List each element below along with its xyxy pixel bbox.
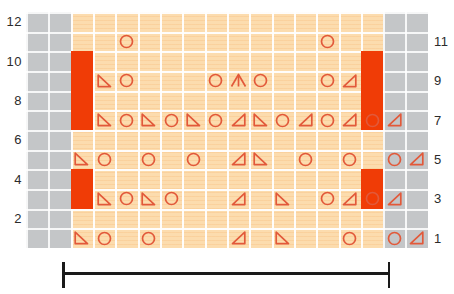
yarn-over-symbol: [138, 150, 160, 170]
decrease-right-symbol: [339, 189, 361, 209]
row-number-1: 1: [434, 232, 454, 245]
yarn-over-symbol: [316, 110, 338, 130]
decrease-left-symbol: [93, 71, 115, 91]
decrease-left-symbol: [93, 110, 115, 130]
row-number-12: 12: [0, 15, 22, 28]
decrease-right-symbol: [339, 110, 361, 130]
yarn-over-symbol: [93, 228, 115, 248]
yarn-over-symbol: [160, 189, 182, 209]
yarn-over-symbol: [93, 150, 115, 170]
row-number-11: 11: [434, 35, 454, 48]
decrease-right-symbol: [227, 150, 249, 170]
row-number-7: 7: [434, 114, 454, 127]
row-number-9: 9: [434, 74, 454, 87]
yarn-over-symbol: [160, 110, 182, 130]
decrease-left-symbol: [138, 189, 160, 209]
yarn-over-symbol: [115, 110, 137, 130]
repeat-bracket: [0, 258, 454, 294]
yarn-over-symbol: [272, 110, 294, 130]
decrease-left-symbol: [138, 110, 160, 130]
yarn-over-symbol: [205, 71, 227, 91]
central-double-decrease-symbol: [227, 71, 249, 91]
decrease-right-symbol: [406, 228, 428, 248]
decrease-left-symbol: [182, 110, 204, 130]
yarn-over-symbol: [115, 71, 137, 91]
decrease-left-symbol: [249, 110, 271, 130]
decrease-right-symbol: [227, 189, 249, 209]
decrease-right-symbol: [406, 150, 428, 170]
stitch-chart: 121086421197531: [0, 0, 454, 294]
decrease-left-symbol: [93, 189, 115, 209]
bracket-left-tick: [62, 262, 65, 288]
bracket-horizontal-bar: [62, 272, 390, 275]
yarn-over-symbol: [339, 228, 361, 248]
decrease-right-symbol: [227, 228, 249, 248]
row-number-3: 3: [434, 192, 454, 205]
row-number-6: 6: [0, 133, 22, 146]
yarn-over-symbol: [115, 189, 137, 209]
row-number-2: 2: [0, 212, 22, 225]
decrease-left-symbol: [272, 228, 294, 248]
yarn-over-symbol: [316, 32, 338, 52]
decrease-left-symbol: [71, 228, 93, 248]
yarn-over-symbol: [294, 150, 316, 170]
yarn-over-symbol: [361, 189, 383, 209]
row-number-10: 10: [0, 55, 22, 68]
yarn-over-symbol: [383, 150, 405, 170]
row-number-8: 8: [0, 94, 22, 107]
decrease-left-symbol: [71, 150, 93, 170]
yarn-over-symbol: [249, 71, 271, 91]
yarn-over-symbol: [339, 150, 361, 170]
symbol-layer: [26, 12, 428, 248]
yarn-over-symbol: [205, 110, 227, 130]
decrease-right-symbol: [227, 110, 249, 130]
decrease-right-symbol: [383, 189, 405, 209]
yarn-over-symbol: [316, 71, 338, 91]
bracket-right-tick: [388, 262, 391, 288]
decrease-right-symbol: [339, 71, 361, 91]
decrease-right-symbol: [294, 110, 316, 130]
decrease-left-symbol: [272, 189, 294, 209]
decrease-right-symbol: [383, 110, 405, 130]
yarn-over-symbol: [138, 228, 160, 248]
chart-grid: [26, 12, 428, 248]
yarn-over-symbol: [182, 150, 204, 170]
decrease-left-symbol: [249, 150, 271, 170]
yarn-over-symbol: [316, 189, 338, 209]
row-number-5: 5: [434, 153, 454, 166]
yarn-over-symbol: [383, 228, 405, 248]
yarn-over-symbol: [115, 32, 137, 52]
yarn-over-symbol: [361, 110, 383, 130]
row-number-4: 4: [0, 173, 22, 186]
